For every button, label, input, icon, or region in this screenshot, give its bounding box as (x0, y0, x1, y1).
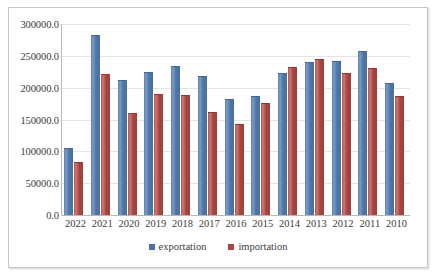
y-axis-tick-label: 150000.0 (11, 114, 59, 125)
bar-importation-2016[interactable] (235, 124, 244, 215)
y-axis-tick-label: 200000.0 (11, 82, 59, 93)
x-axis-tick-label: 2015 (252, 218, 273, 229)
x-axis-tick-label: 2014 (279, 218, 300, 229)
bar-exportation-2019[interactable] (144, 72, 153, 215)
bar-group (62, 24, 89, 215)
y-axis-tick-label: 300000.0 (11, 19, 59, 30)
bar-group (169, 24, 196, 215)
x-axis-tick-label: 2017 (199, 218, 220, 229)
x-axis-tick-labels: 2022202120202019201820172016201520142013… (62, 218, 410, 234)
x-axis-tick-label: 2021 (92, 218, 113, 229)
bar-importation-2020[interactable] (128, 113, 137, 215)
bar-group (276, 24, 303, 215)
bar-exportation-2022[interactable] (64, 148, 73, 215)
bar-importation-2022[interactable] (74, 162, 83, 215)
legend-swatch-icon (228, 244, 234, 250)
bar-exportation-2011[interactable] (358, 51, 367, 215)
bar-series-layer (62, 24, 410, 215)
x-axis-tick-label: 2018 (172, 218, 193, 229)
plot-area (62, 24, 410, 215)
bar-exportation-2012[interactable] (332, 61, 341, 215)
y-axis-tick-label: 100000.0 (11, 146, 59, 157)
bar-exportation-2021[interactable] (91, 35, 100, 215)
bar-group (356, 24, 383, 215)
y-axis-tick-label: 250000.0 (11, 50, 59, 61)
y-axis-tick-labels: 0.050000.0100000.0150000.0200000.0250000… (9, 8, 59, 267)
x-axis-tick-label: 2011 (360, 218, 381, 229)
legend-item-exportation[interactable]: exportation (149, 241, 207, 252)
bar-group (383, 24, 410, 215)
bar-exportation-2010[interactable] (385, 83, 394, 215)
bar-importation-2014[interactable] (288, 67, 297, 215)
chart-legend: exportationimportation (9, 241, 427, 252)
bar-group (223, 24, 250, 215)
bar-importation-2013[interactable] (315, 59, 324, 215)
bar-importation-2010[interactable] (395, 96, 404, 215)
x-axis-tick-label: 2016 (226, 218, 247, 229)
bar-group (89, 24, 116, 215)
y-axis-tick-label: 0.0 (11, 210, 59, 221)
bar-exportation-2017[interactable] (198, 76, 207, 215)
x-axis-tick-label: 2013 (306, 218, 327, 229)
bar-exportation-2018[interactable] (171, 66, 180, 215)
bar-group (196, 24, 223, 215)
x-axis-tick-label: 2010 (386, 218, 407, 229)
bar-importation-2019[interactable] (154, 94, 163, 215)
bar-exportation-2014[interactable] (278, 73, 287, 215)
bar-group (330, 24, 357, 215)
bar-group (142, 24, 169, 215)
bar-importation-2017[interactable] (208, 112, 217, 215)
legend-label: importation (238, 241, 287, 252)
x-axis-tick-label: 2020 (118, 218, 139, 229)
bar-exportation-2020[interactable] (118, 80, 127, 215)
bar-importation-2021[interactable] (101, 74, 110, 215)
bar-group (249, 24, 276, 215)
legend-item-importation[interactable]: importation (228, 241, 287, 252)
bar-exportation-2016[interactable] (225, 99, 234, 215)
y-axis-tick-label: 50000.0 (11, 178, 59, 189)
bar-group (116, 24, 143, 215)
x-axis-tick-label: 2019 (145, 218, 166, 229)
bar-importation-2012[interactable] (342, 73, 351, 215)
bar-exportation-2013[interactable] (305, 62, 314, 215)
chart-frame: 0.050000.0100000.0150000.0200000.0250000… (8, 7, 428, 268)
bar-exportation-2015[interactable] (251, 96, 260, 215)
bar-importation-2015[interactable] (261, 103, 270, 215)
bar-importation-2018[interactable] (181, 95, 190, 215)
x-axis-tick-label: 2022 (65, 218, 86, 229)
bar-group (303, 24, 330, 215)
legend-label: exportation (159, 241, 207, 252)
bar-importation-2011[interactable] (368, 68, 377, 215)
x-axis-tick-label: 2012 (333, 218, 354, 229)
gridline (62, 215, 410, 216)
legend-swatch-icon (149, 244, 155, 250)
